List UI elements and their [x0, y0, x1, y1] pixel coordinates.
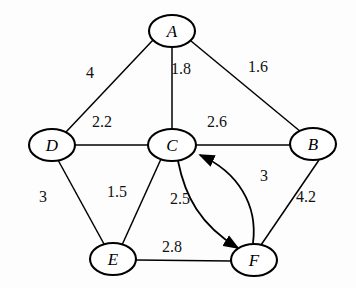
node-c[interactable]: C	[148, 129, 196, 161]
node-a[interactable]: A	[149, 15, 195, 47]
node-b-label: B	[308, 135, 319, 154]
edge-e-f	[136, 260, 231, 261]
node-d[interactable]: D	[29, 129, 75, 161]
node-group: A B C D E F	[29, 15, 336, 276]
node-f-label: F	[248, 251, 260, 270]
edge-f-c-directed	[200, 155, 254, 243]
edge-weight-e-c: 1.5	[107, 183, 127, 200]
node-c-label: C	[166, 136, 178, 155]
node-f[interactable]: F	[231, 244, 277, 276]
edge-weight-e-f: 2.8	[162, 238, 182, 255]
page-bottom-margin	[0, 288, 356, 302]
edge-weight-b-f: 4.2	[296, 188, 316, 205]
node-e-label: E	[107, 250, 119, 269]
node-b[interactable]: B	[290, 128, 336, 160]
edge-weight-f-c: 3	[260, 167, 268, 184]
edge-d-e	[58, 160, 104, 244]
node-a-label: A	[166, 22, 178, 41]
node-d-label: D	[45, 136, 59, 155]
edge-weight-a-c: 1.8	[171, 60, 191, 77]
node-e[interactable]: E	[90, 243, 136, 275]
edge-weight-d-e: 3	[39, 188, 47, 205]
edge-weight-c-b: 2.6	[207, 113, 227, 130]
edge-weight-a-b: 1.6	[248, 58, 268, 75]
edge-weight-a-d: 4	[86, 64, 94, 81]
graph-diagram-canvas: A B C D E F	[0, 0, 356, 302]
edge-weight-c-f: 2.5	[170, 190, 190, 207]
edge-weight-d-c: 2.2	[92, 113, 112, 130]
graph-svg: A B C D E F	[0, 0, 356, 302]
edge-e-c	[122, 159, 161, 245]
